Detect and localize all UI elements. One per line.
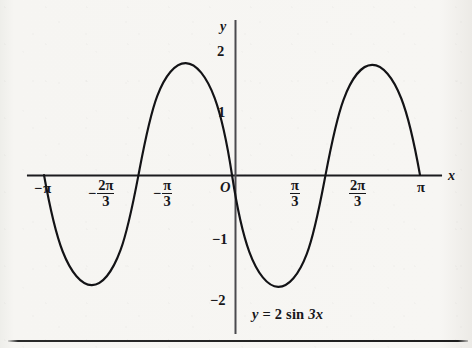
fraction: π 3 <box>162 178 172 209</box>
page-bottom-rule <box>8 340 468 342</box>
y-tick-minus-2: −2 <box>210 293 226 308</box>
x-axis-label: x <box>448 169 455 183</box>
x-tick-neg-2pi-over-3: − 2π 3 <box>88 178 114 209</box>
fraction-numerator: 2π <box>97 178 114 194</box>
fraction: π 3 <box>290 178 300 209</box>
x-tick-pi: π <box>417 180 425 195</box>
pi-symbol: π <box>43 181 51 196</box>
fraction-denominator: 3 <box>349 194 366 209</box>
equation-function: sin <box>286 306 304 322</box>
minus-sign: − <box>34 181 42 196</box>
y-tick-2: 2 <box>217 44 224 59</box>
equation-lhs: y <box>252 306 259 322</box>
y-tick-minus-1: −1 <box>212 232 228 247</box>
fraction-denominator: 3 <box>290 194 300 209</box>
graph-canvas <box>0 0 472 348</box>
origin-label: O <box>220 180 230 195</box>
figure-page: y x O 2 1 −1 −2 − π − 2π 3 − π 3 <box>0 0 472 348</box>
equation-argument: 3x <box>308 306 323 322</box>
fraction-numerator: π <box>162 178 172 194</box>
fraction-denominator: 3 <box>97 194 114 209</box>
x-tick-neg-pi: − π <box>34 180 51 196</box>
x-tick-pi-over-3: π 3 <box>290 178 300 209</box>
fraction: 2π 3 <box>349 178 366 209</box>
equation-caption: y = 2 sin 3x <box>252 307 323 322</box>
equation-equals: = <box>262 306 270 322</box>
fraction: 2π 3 <box>97 178 114 209</box>
minus-sign: − <box>88 186 96 201</box>
fraction-numerator: π <box>290 178 300 194</box>
y-tick-1: 1 <box>218 105 225 120</box>
y-axis-label: y <box>220 20 226 34</box>
x-tick-2pi-over-3: 2π 3 <box>349 178 366 209</box>
fraction-denominator: 3 <box>162 194 172 209</box>
fraction-numerator: 2π <box>349 178 366 194</box>
x-tick-neg-pi-over-3: − π 3 <box>153 178 172 209</box>
minus-sign: − <box>153 186 161 201</box>
